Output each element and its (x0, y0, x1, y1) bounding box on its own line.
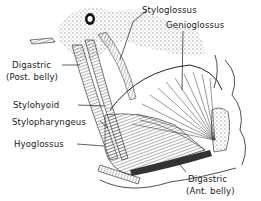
label-styloglossus: Styloglossus (142, 5, 197, 15)
label-digastric-anterior-sub: (Ant. belly) (186, 186, 235, 196)
label-digastric-posterior: Digastric (12, 60, 51, 70)
label-digastric-posterior-sub: (Post. belly) (6, 72, 58, 82)
label-stylopharyngeus: Stylopharyngeus (12, 117, 86, 127)
label-genioglossus: Genioglossus (166, 20, 224, 30)
label-digastric-anterior: Digastric (188, 174, 227, 184)
label-hyoglossus: Hyoglossus (14, 139, 64, 149)
anatomical-illustration: Styloglossus Genioglossus Digastric (Pos… (0, 0, 261, 201)
label-stylohyoid: Stylohyoid (13, 100, 59, 110)
